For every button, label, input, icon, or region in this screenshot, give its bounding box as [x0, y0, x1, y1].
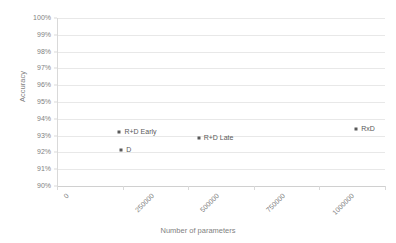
- x-axis-tick-label: 500000: [199, 192, 221, 214]
- scatter-chart: Accuracy 90%91%92%93%94%95%96%97%98%99%1…: [0, 0, 396, 243]
- data-point-label: R+D Early: [124, 128, 156, 136]
- gridline: [58, 18, 385, 19]
- y-axis-tick-label: 98%: [37, 48, 51, 56]
- data-point[interactable]: [355, 127, 358, 130]
- y-axis-tick-label: 99%: [37, 31, 51, 39]
- data-point[interactable]: [120, 148, 123, 151]
- y-axis-tick-label: 96%: [37, 81, 51, 89]
- gridline: [58, 102, 385, 103]
- y-axis-tick-label: 95%: [37, 98, 51, 106]
- x-axis-tick-mark: [319, 186, 320, 190]
- data-point[interactable]: [197, 137, 200, 140]
- y-axis-tick-labels: 90%91%92%93%94%95%96%97%98%99%100%: [0, 0, 57, 243]
- x-axis-tick-mark: [385, 186, 386, 190]
- gridline: [58, 152, 385, 153]
- gridline: [58, 119, 385, 120]
- gridline: [58, 85, 385, 86]
- plot-area: [57, 18, 385, 186]
- y-axis-tick-label: 90%: [37, 182, 51, 190]
- data-point-label: RxD: [361, 125, 375, 133]
- y-axis-tick-label: 93%: [37, 132, 51, 140]
- data-point-label: D: [126, 146, 131, 154]
- x-axis-tick-mark: [57, 186, 58, 190]
- x-axis-title: Number of parameters: [0, 226, 396, 235]
- x-axis-line: [57, 186, 385, 187]
- x-axis-tick-mark: [188, 186, 189, 190]
- y-axis-tick-label: 91%: [37, 165, 51, 173]
- y-axis-tick-label: 100%: [33, 14, 51, 22]
- x-axis-tick-mark: [123, 186, 124, 190]
- x-axis-tick-label: 1000000: [331, 192, 356, 217]
- x-axis-tick-label: 750000: [265, 192, 287, 214]
- x-axis-tick-label: 0: [62, 192, 70, 200]
- gridline: [58, 68, 385, 69]
- y-axis-tick-label: 92%: [37, 148, 51, 156]
- gridline: [58, 52, 385, 53]
- gridline: [58, 169, 385, 170]
- y-axis-tick-label: 97%: [37, 64, 51, 72]
- y-axis-tick-label: 94%: [37, 115, 51, 123]
- data-point-label: R+D Late: [204, 134, 234, 142]
- data-point[interactable]: [118, 131, 121, 134]
- x-axis-tick-mark: [254, 186, 255, 190]
- gridline: [58, 35, 385, 36]
- x-axis-tick-label: 250000: [133, 192, 155, 214]
